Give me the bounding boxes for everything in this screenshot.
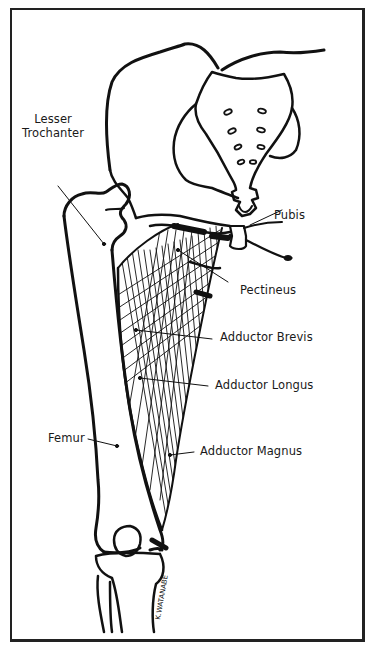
label-femur: Femur [48,431,85,445]
label-adductor-magnus: Adductor Magnus [200,444,302,458]
femur-head [64,184,129,250]
label-adductor-longus: Adductor Longus [215,378,313,392]
artist-signature: K.WATANABE [154,574,170,620]
ilium-inner [110,170,136,218]
sacrum-outline [195,72,292,216]
label-lesser-trochanter-line2: Trochanter [22,126,84,140]
pectineus-origin [174,226,204,232]
sacral-foramina [223,108,266,165]
thigh-anatomy-drawing: K.WATANABE [0,0,380,652]
label-pectineus: Pectineus [240,283,296,297]
label-pubis: Pubis [274,208,305,222]
femur-shaft [64,216,104,552]
adductor-longus-origin [212,236,228,238]
fibula [97,576,112,632]
label-lesser-trochanter: Lesser Trochanter [22,112,84,140]
label-adductor-brevis: Adductor Brevis [220,330,313,344]
tibia [96,553,163,632]
label-lesser-trochanter-line1: Lesser [22,112,84,126]
pubic-symphysis [230,226,246,249]
